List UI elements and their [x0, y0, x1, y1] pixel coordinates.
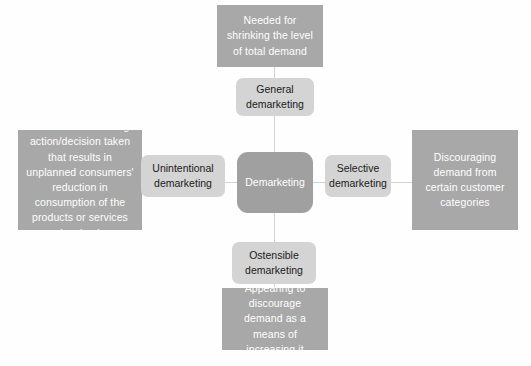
description-box-general: Needed for shrinking the level of total … [217, 5, 323, 67]
node-unintentional-demarketing[interactable]: Unintentional demarketing [141, 155, 225, 197]
connector-right-description [391, 182, 412, 183]
description-box-selective: Discouraging demand from certain custome… [412, 130, 518, 230]
connector-left-node [225, 182, 237, 183]
description-box-ostensible: Appearing to discourage demand as a mean… [222, 288, 328, 350]
center-node-demarketing[interactable]: Demarketing [237, 152, 313, 213]
node-ostensible-demarketing[interactable]: Ostensible demarketing [232, 242, 316, 284]
connector-top-node [274, 116, 275, 152]
connector-right-node [313, 182, 325, 183]
node-general-demarketing[interactable]: General demarketing [236, 78, 314, 116]
connector-top-description [274, 67, 275, 78]
node-selective-demarketing[interactable]: Selective demarketing [325, 155, 391, 197]
connector-bottom-node [274, 213, 275, 242]
description-box-unintentional: This is the marketing action/decision ta… [18, 130, 142, 230]
diagram-canvas: Needed for shrinking the level of total … [0, 0, 531, 366]
